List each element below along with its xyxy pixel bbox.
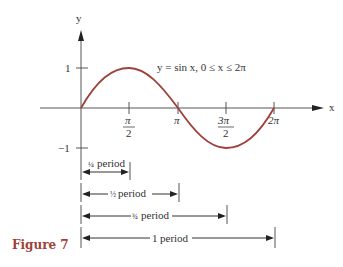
equation-label: y = sin x, 0 ≤ x ≤ 2π bbox=[157, 61, 246, 73]
x-axis-arrow-icon bbox=[312, 105, 324, 111]
period-fraction: ¼ bbox=[88, 160, 94, 169]
axes bbox=[40, 30, 324, 160]
ytick-label-neg1: −1 bbox=[58, 142, 70, 154]
period-fraction: 1 bbox=[152, 232, 158, 244]
period-label: period bbox=[160, 232, 189, 244]
period-label: period bbox=[118, 187, 147, 199]
x-axis-label: x bbox=[329, 101, 335, 113]
period-full: 1 period bbox=[81, 227, 275, 248]
xtick-label-pi: π bbox=[174, 114, 180, 126]
period-fraction: ¾ bbox=[132, 212, 138, 221]
period-three-quarter: ¾ period bbox=[81, 205, 227, 224]
arrow-left-icon bbox=[82, 213, 90, 219]
period-quarter: ¼ period bbox=[81, 157, 130, 180]
xtick-label-3halfpi-den: 2 bbox=[223, 127, 229, 139]
arrow-right-icon bbox=[266, 235, 274, 241]
xtick-label-3halfpi-num: 3π bbox=[217, 114, 230, 126]
arrow-right-icon bbox=[170, 191, 178, 197]
period-fraction: ½ bbox=[110, 190, 116, 199]
sine-chart: x y 1 −1 π 2 π 3π 2 2π y = sin x, 0 ≤ x … bbox=[0, 0, 343, 267]
figure-caption: Figure 7 bbox=[12, 238, 69, 252]
xtick-label-halfpi-num: π bbox=[125, 114, 131, 126]
arrow-right-icon bbox=[121, 169, 129, 175]
ytick-label-1: 1 bbox=[65, 62, 71, 74]
period-label: period bbox=[141, 209, 170, 221]
period-label: period bbox=[97, 157, 126, 169]
arrow-left-icon bbox=[82, 169, 90, 175]
y-axis-arrow-icon bbox=[78, 30, 84, 41]
xtick-label-halfpi-den: 2 bbox=[126, 127, 132, 139]
y-axis-label: y bbox=[76, 12, 82, 24]
period-half: ½ period bbox=[81, 183, 179, 202]
arrow-left-icon bbox=[82, 235, 90, 241]
arrow-left-icon bbox=[82, 191, 90, 197]
arrow-right-icon bbox=[218, 213, 226, 219]
